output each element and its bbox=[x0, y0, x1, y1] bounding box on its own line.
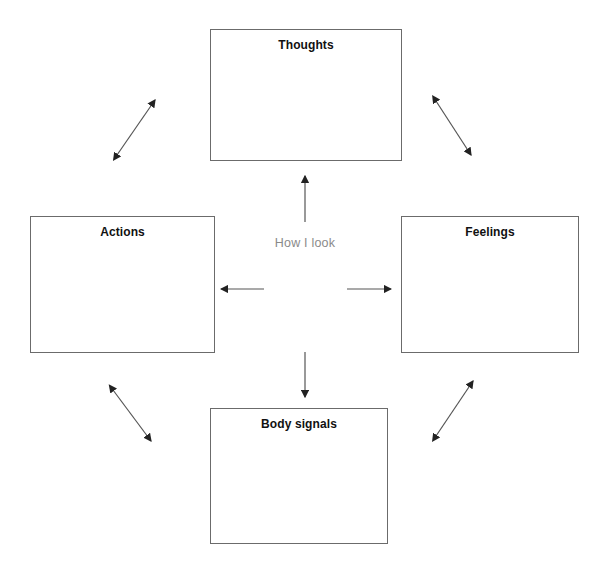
box-thoughts[interactable]: Thoughts bbox=[210, 29, 402, 161]
arrow-corner-bottom-left bbox=[113, 390, 151, 441]
box-body-signals-label: Body signals bbox=[211, 417, 387, 431]
arrow-corner-top-left bbox=[117, 100, 155, 155]
arrow-corner-top-right bbox=[436, 101, 471, 155]
arrow-corner-bottom-right bbox=[436, 381, 473, 436]
box-body-signals[interactable]: Body signals bbox=[210, 408, 388, 544]
diagram-canvas: Thoughts Actions Feelings Body signals H… bbox=[0, 0, 610, 573]
box-thoughts-label: Thoughts bbox=[211, 38, 401, 52]
center-label: How I look bbox=[0, 236, 610, 250]
